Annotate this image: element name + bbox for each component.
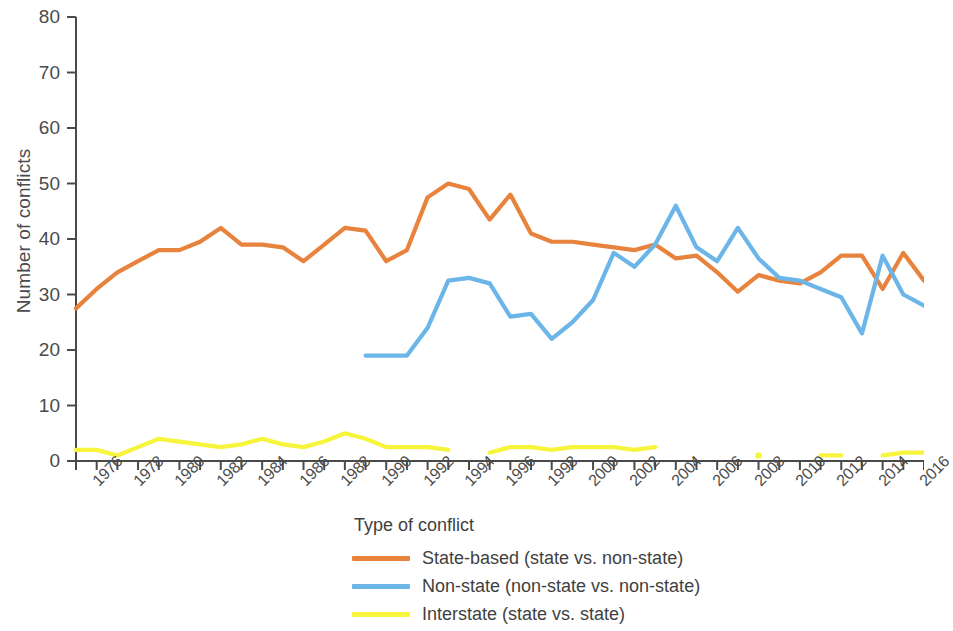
- series-line-2: [76, 433, 448, 455]
- legend-item-label: State-based (state vs. non-state): [422, 548, 683, 569]
- y-axis-tick-labels: 80706050403020100: [14, 0, 60, 470]
- series-line-1: [366, 206, 924, 356]
- data-series-group: [76, 184, 924, 459]
- legend-item-label: Interstate (state vs. state): [422, 604, 625, 625]
- y-tick-label: 50: [26, 174, 60, 193]
- y-tick-label: 60: [26, 118, 60, 137]
- y-axis-ticks: [67, 17, 76, 461]
- y-tick-label: 80: [26, 7, 60, 26]
- legend-color-swatch: [352, 556, 410, 561]
- series-line-0: [76, 184, 924, 309]
- legend-item[interactable]: State-based (state vs. non-state): [352, 544, 872, 572]
- y-tick-label: 40: [26, 229, 60, 248]
- legend-item[interactable]: Non-state (non-state vs. non-state): [352, 572, 872, 600]
- y-tick-label: 0: [26, 451, 60, 470]
- series-point: [755, 452, 761, 458]
- series-line-2: [490, 447, 655, 453]
- chart-legend: Type of conflict State-based (state vs. …: [352, 515, 872, 628]
- y-tick-label: 10: [26, 396, 60, 415]
- y-tick-label: 30: [26, 285, 60, 304]
- legend-items: State-based (state vs. non-state)Non-sta…: [352, 544, 872, 628]
- legend-color-swatch: [352, 612, 410, 617]
- y-tick-label: 70: [26, 63, 60, 82]
- y-tick-label: 20: [26, 340, 60, 359]
- legend-color-swatch: [352, 584, 410, 589]
- legend-title: Type of conflict: [354, 515, 872, 536]
- legend-item[interactable]: Interstate (state vs. state): [352, 600, 872, 628]
- legend-item-label: Non-state (non-state vs. non-state): [422, 576, 700, 597]
